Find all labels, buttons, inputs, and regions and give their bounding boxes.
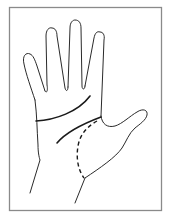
middle-finger-outline: [68, 20, 85, 89]
heart-line: [36, 96, 90, 121]
pinky-finger-outline: [23, 53, 45, 100]
index-finger-outline: [85, 32, 104, 116]
diagram-frame: [10, 8, 162, 211]
ring-finger-outline: [45, 28, 68, 92]
head-line: [57, 117, 101, 143]
wrist-right-edge: [75, 178, 85, 203]
life-line-dashed: [77, 121, 97, 178]
palm-left-edge: [30, 100, 40, 193]
palm-diagram: [0, 0, 174, 222]
